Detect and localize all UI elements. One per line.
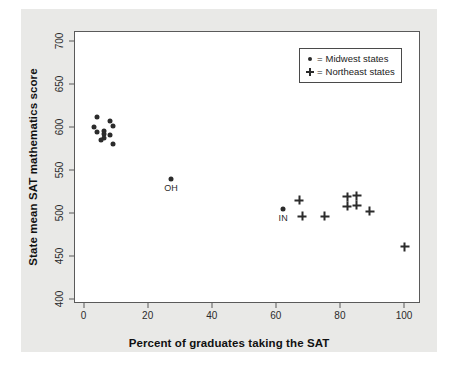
- y-tick-mark: [69, 298, 74, 299]
- x-axis-title: Percent of graduates taking the SAT: [0, 337, 458, 349]
- y-tick-label: 500: [54, 205, 65, 222]
- y-tick-mark: [69, 84, 74, 85]
- y-tick-label: 700: [54, 33, 65, 50]
- x-tick-mark: [403, 303, 404, 308]
- x-tick-label: 60: [270, 310, 281, 321]
- x-tick-label: 0: [81, 310, 87, 321]
- x-tick-label: 80: [334, 310, 345, 321]
- chart-legend: = Midwest states = Northeast states: [299, 48, 402, 83]
- legend-equals-midwest: =: [317, 53, 323, 64]
- x-tick-mark: [339, 303, 340, 308]
- data-point-label: OH: [164, 183, 178, 193]
- data-point-midwest: [95, 114, 100, 119]
- data-point-northeast: [295, 196, 304, 205]
- data-point-northeast: [320, 212, 329, 221]
- data-point-northeast: [352, 191, 361, 200]
- midwest-dot-icon: [305, 53, 316, 64]
- y-tick-label: 650: [54, 76, 65, 93]
- data-point-midwest: [169, 176, 174, 181]
- legend-item-midwest: = Midwest states: [305, 52, 395, 65]
- y-axis-title: State mean SAT mathematics score: [27, 68, 39, 265]
- y-tick-mark: [69, 170, 74, 171]
- y-tick-mark: [69, 212, 74, 213]
- data-point-midwest: [111, 123, 116, 128]
- x-tick-mark: [275, 303, 276, 308]
- data-point-midwest: [111, 142, 116, 147]
- data-point-northeast: [400, 242, 409, 251]
- data-point-northeast: [365, 207, 374, 216]
- data-point-northeast: [298, 212, 307, 221]
- y-tick-mark: [69, 41, 74, 42]
- data-point-northeast: [352, 201, 361, 210]
- northeast-plus-icon: [305, 66, 316, 77]
- y-tick-label: 600: [54, 119, 65, 136]
- x-tick-mark: [83, 303, 84, 308]
- x-tick-mark: [147, 303, 148, 308]
- data-point-midwest: [281, 206, 286, 211]
- data-point-midwest: [98, 138, 103, 143]
- scatter-plot-figure: State mean SAT mathematics score Percent…: [0, 0, 458, 375]
- y-tick-label: 400: [54, 290, 65, 307]
- y-tick-label: 550: [54, 162, 65, 179]
- y-tick-label: 450: [54, 247, 65, 264]
- legend-equals-northeast: =: [317, 66, 323, 77]
- data-point-northeast: [343, 202, 352, 211]
- x-tick-label: 20: [142, 310, 153, 321]
- legend-label-midwest: Midwest states: [326, 53, 389, 64]
- legend-item-northeast: = Northeast states: [305, 65, 395, 78]
- data-point-midwest: [95, 129, 100, 134]
- x-tick-label: 40: [206, 310, 217, 321]
- data-point-label: IN: [279, 213, 288, 223]
- x-tick-mark: [211, 303, 212, 308]
- y-tick-mark: [69, 255, 74, 256]
- legend-label-northeast: Northeast states: [326, 66, 395, 77]
- data-point-midwest: [108, 132, 113, 137]
- y-tick-mark: [69, 127, 74, 128]
- data-point-northeast: [343, 192, 352, 201]
- x-tick-label: 100: [396, 310, 413, 321]
